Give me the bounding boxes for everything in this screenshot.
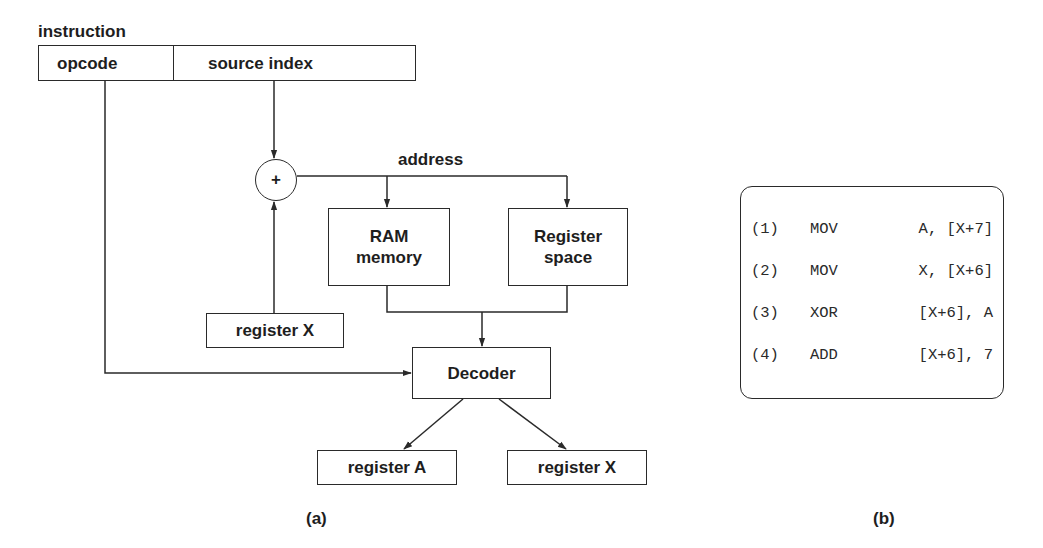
code-operands: A, [X+7] (919, 220, 993, 238)
code-opcode: ADD (810, 346, 838, 364)
code-line-number: (1) (751, 220, 779, 238)
address-label: address (398, 150, 463, 170)
code-line: (1) MOV A, [X+7] (741, 220, 1003, 240)
opcode-field: opcode (38, 45, 175, 81)
register-x-output-box: register X (507, 450, 647, 485)
register-x-input-label: register X (236, 320, 314, 341)
code-operands: [X+6], A (919, 304, 993, 322)
source-index-label: source index (208, 53, 313, 74)
code-operands: X, [X+6] (919, 262, 993, 280)
code-opcode: MOV (810, 220, 838, 238)
code-opcode: XOR (810, 304, 838, 322)
register-x-input-box: register X (206, 313, 344, 348)
code-operands: [X+6], 7 (919, 346, 993, 364)
source-index-field: source index (173, 45, 416, 81)
code-line-number: (3) (751, 304, 779, 322)
decoder-box: Decoder (412, 347, 551, 399)
register-a-output-box: register A (317, 450, 457, 485)
plus-icon: + (271, 170, 281, 190)
opcode-label: opcode (57, 53, 117, 74)
code-line: (4) ADD [X+6], 7 (741, 346, 1003, 366)
decoder-label: Decoder (447, 363, 515, 384)
register-x-output-label: register X (538, 457, 616, 478)
code-line: (2) MOV X, [X+6] (741, 262, 1003, 282)
code-line-number: (2) (751, 262, 779, 280)
code-line: (3) XOR [X+6], A (741, 304, 1003, 324)
code-opcode: MOV (810, 262, 838, 280)
caption-a: (a) (306, 509, 327, 529)
instruction-listing: (1) MOV A, [X+7] (2) MOV X, [X+6] (3) XO… (740, 186, 1004, 399)
ram-memory-label: RAM memory (351, 226, 427, 268)
register-space-label: Register space (523, 226, 613, 268)
instruction-label: instruction (38, 22, 126, 42)
code-line-number: (4) (751, 346, 779, 364)
ram-memory-box: RAM memory (328, 208, 450, 286)
register-a-output-label: register A (348, 457, 427, 478)
register-space-box: Register space (508, 208, 628, 286)
caption-b: (b) (873, 509, 895, 529)
adder-circle: + (255, 159, 297, 201)
